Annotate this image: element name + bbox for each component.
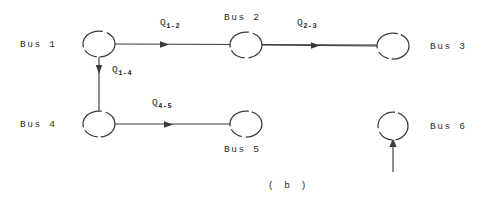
- arrowhead-bus1-bus2: [160, 41, 169, 47]
- bus-label-bus6: Bus 6: [430, 122, 467, 132]
- flow-label-bus1-bus2: Q1-2: [160, 18, 180, 30]
- flow-symbol-bus1-bus2: Q: [160, 17, 166, 28]
- flow-subscript-bus1-bus2: 1-2: [166, 22, 180, 30]
- flow-symbol-bus2-bus3: Q: [297, 17, 303, 28]
- bus-node-bus5[interactable]: [230, 111, 262, 137]
- network-diagram: [0, 0, 489, 197]
- bus-node-bus1[interactable]: [83, 31, 115, 57]
- flow-label-bus2-bus3: Q2-3: [297, 18, 317, 30]
- bus-node-bus2[interactable]: [230, 32, 262, 58]
- bus-label-bus5: Bus 5: [224, 145, 261, 155]
- arrowhead-bus2-bus3: [311, 42, 320, 48]
- bus-label-bus1: Bus 1: [20, 40, 57, 50]
- arrowhead-bus1-bus4: [96, 65, 102, 74]
- flow-subscript-bus4-bus5: 4-5: [158, 102, 172, 110]
- bus-node-bus4[interactable]: [83, 111, 115, 137]
- flow-subscript-bus1-bus4: 1-4: [118, 69, 132, 77]
- figure-canvas: Bus 1 Bus 2 Bus 3 Bus 4 Bus 5 Bus 6 Q1-2…: [0, 0, 489, 197]
- flow-label-bus4-bus5: Q4-5: [152, 98, 172, 110]
- figure-caption: ( b ): [268, 181, 309, 191]
- bus-label-bus4: Bus 4: [20, 120, 57, 130]
- flow-subscript-bus2-bus3: 2-3: [303, 22, 317, 30]
- flow-symbol-bus1-bus4: Q: [112, 64, 118, 75]
- arrowhead-bus4-bus5: [164, 121, 173, 127]
- bus-label-bus3: Bus 3: [430, 42, 467, 52]
- bus-label-bus2: Bus 2: [224, 13, 261, 23]
- bus-node-bus3[interactable]: [377, 33, 409, 59]
- flow-label-bus1-bus4: Q1-4: [112, 65, 132, 77]
- flow-symbol-bus4-bus5: Q: [152, 97, 158, 108]
- bus-node-bus6[interactable]: [378, 112, 408, 140]
